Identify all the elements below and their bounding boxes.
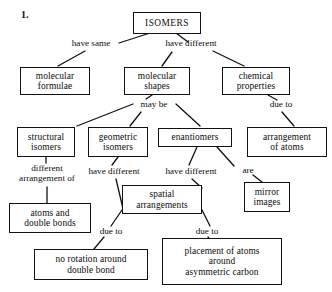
- edge-are-mirror-images: [253, 175, 262, 182]
- item-number: 1.: [21, 9, 29, 20]
- node-spatial-arrangements-label: spatial arrangements: [134, 189, 190, 209]
- link-label-are: are: [236, 165, 260, 175]
- node-enantiomers-label: enantiomers: [170, 132, 221, 142]
- node-chemical-properties-label: chemical properties: [235, 71, 278, 91]
- link-label-due-to-top-right: due to: [262, 99, 300, 109]
- node-structural-isomers[interactable]: structural isomers: [17, 127, 75, 157]
- node-molecular-shapes-label: molecular shapes: [136, 71, 178, 91]
- node-no-rotation-label: no rotation around double bond: [53, 254, 128, 274]
- edge-isomers-have-same: [119, 33, 150, 43]
- edge-may-be-structural-isomers: [77, 104, 133, 126]
- edge-geometric-isomers-have-different: [112, 157, 118, 165]
- edge-spatial-due-to-left: [111, 210, 122, 226]
- link-label-due-to-left: due to: [93, 226, 129, 236]
- link-label-due-to-right: due to: [189, 226, 225, 236]
- link-label-have-same: have same: [62, 38, 120, 48]
- edge-have-different-chemical-properties: [213, 51, 244, 66]
- link-label-may-be: may be: [130, 99, 178, 109]
- node-geometric-isomers-label: geometric isomers: [97, 132, 139, 152]
- link-label-have-different-enantiomers: have different: [158, 166, 224, 176]
- node-spatial-arrangements[interactable]: spatial arrangements: [122, 185, 202, 214]
- node-mirror-images[interactable]: mirror images: [244, 182, 290, 212]
- node-mirror-images-label: mirror images: [251, 187, 282, 207]
- node-placement-of-atoms[interactable]: placement of atoms around asymmetric car…: [162, 238, 282, 285]
- node-no-rotation-around-double-bond[interactable]: no rotation around double bond: [34, 249, 148, 280]
- node-atoms-and-double-bonds-label: atoms and double bonds: [22, 208, 77, 228]
- concept-map-diagram: 1. ISOMERS molecular formulae molecular …: [0, 0, 332, 292]
- link-label-have-different-top: have different: [152, 38, 230, 48]
- node-molecular-formulae-label: molecular formulae: [34, 71, 76, 91]
- edge-enantiomers-are: [217, 147, 234, 166]
- edge-may-be-geometric-isomers: [130, 112, 141, 126]
- node-geometric-isomers[interactable]: geometric isomers: [88, 127, 148, 157]
- node-arrangement-of-atoms[interactable]: arrangement of atoms: [247, 127, 327, 157]
- edge-may-be-enantiomers: [176, 104, 200, 126]
- link-label-have-different-geometric: have different: [81, 166, 147, 176]
- node-enantiomers[interactable]: enantiomers: [158, 128, 232, 147]
- node-molecular-shapes[interactable]: molecular shapes: [124, 67, 190, 95]
- node-arrangement-of-atoms-label: arrangement of atoms: [261, 132, 313, 152]
- edge-have-same-molecular-formulae: [58, 51, 85, 66]
- link-label-different-arrangement-of: different arrangement of: [5, 163, 89, 183]
- node-isomers-label: ISOMERS: [143, 18, 191, 28]
- node-structural-isomers-label: structural isomers: [26, 132, 66, 152]
- node-chemical-properties[interactable]: chemical properties: [222, 67, 290, 95]
- node-molecular-formulae[interactable]: molecular formulae: [20, 67, 90, 95]
- node-placement-of-atoms-label: placement of atoms around asymmetric car…: [182, 246, 261, 276]
- edge-spatial-due-to-right: [202, 210, 210, 226]
- node-atoms-and-double-bonds[interactable]: atoms and double bonds: [9, 203, 91, 233]
- node-isomers[interactable]: ISOMERS: [133, 12, 201, 34]
- edge-due-to-no-rotation: [94, 237, 104, 249]
- edge-enantiomers-have-different: [189, 147, 197, 165]
- edge-due-to-arrangement-of-atoms: [282, 112, 294, 126]
- edge-have-different-molecular-shapes: [162, 52, 172, 66]
